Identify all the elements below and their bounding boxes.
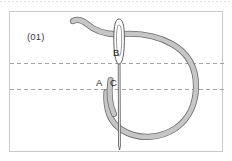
- point-label-c: C: [110, 78, 117, 88]
- thread-path: [73, 20, 196, 137]
- page-edge-rule: [0, 1, 232, 2]
- diagram-page: (01) B A C: [0, 0, 232, 161]
- figure-id-label: (01): [27, 32, 45, 42]
- point-label-a: A: [96, 78, 102, 88]
- needle-shaft: [118, 62, 120, 150]
- point-label-b: B: [113, 48, 119, 58]
